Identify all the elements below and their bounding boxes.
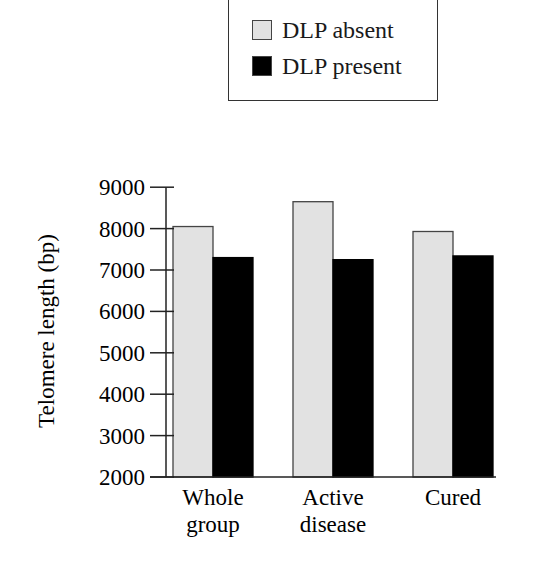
bars-group: [173, 202, 493, 477]
bar-dlp-present: [333, 260, 373, 477]
y-tick-label: 6000: [99, 299, 145, 324]
y-tick-label: 5000: [99, 341, 145, 366]
category-label: disease: [300, 512, 366, 537]
bar-dlp-absent: [293, 202, 333, 477]
category-label: Cured: [425, 485, 482, 510]
bar-dlp-absent: [413, 231, 453, 477]
y-tick-label: 8000: [99, 217, 145, 242]
bar-dlp-absent: [173, 227, 213, 477]
bar-chart: 20003000400050006000700080009000 Wholegr…: [0, 0, 542, 567]
y-tick-label: 7000: [99, 258, 145, 283]
y-tick-label: 2000: [99, 465, 145, 490]
category-label: group: [186, 512, 240, 537]
bar-dlp-present: [213, 258, 253, 477]
y-tick-label: 4000: [99, 382, 145, 407]
y-tick-label: 9000: [99, 175, 145, 200]
category-label: Whole: [182, 485, 243, 510]
bar-dlp-present: [453, 256, 493, 477]
y-axis-title: Telomere length (bp): [34, 234, 59, 428]
category-label: Active: [302, 485, 363, 510]
y-tick-label: 3000: [99, 424, 145, 449]
x-axis-categories: WholegroupActivediseaseCured: [182, 485, 481, 537]
